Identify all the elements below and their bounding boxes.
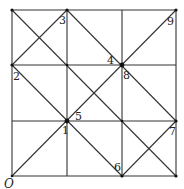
point-2 [10,63,13,66]
labels: 3 9 2 4 8 5 1 7 6 O [4,14,176,189]
point-4-8 [120,63,125,68]
label-4: 4 [107,54,114,67]
point-corner-br [174,174,177,177]
point-2-1 [121,120,124,123]
label-6: 6 [114,161,121,174]
point-7 [174,119,177,122]
point-1-2 [66,64,69,67]
label-1: 1 [62,124,69,137]
point-1-5 [65,119,70,124]
grid-diagram: 3 9 2 4 8 5 1 7 6 O [0,0,184,189]
label-8: 8 [123,69,130,82]
label-5: 5 [75,110,82,123]
label-2: 2 [13,70,20,83]
diagonal-lines [12,10,176,176]
point-6 [120,174,123,177]
label-7: 7 [169,125,176,138]
label-9: 9 [167,15,174,28]
point-9 [174,8,177,11]
point-corner-tl [10,8,13,11]
point-3 [65,8,68,11]
label-3: 3 [59,14,66,27]
label-origin: O [4,177,14,189]
